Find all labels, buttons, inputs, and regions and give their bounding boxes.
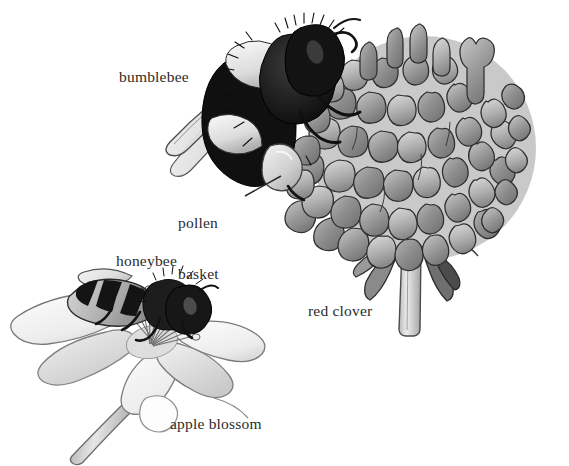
illustration-canvas	[0, 0, 569, 466]
illustration-figure: bumblebee pollen basket honeybee red clo…	[0, 0, 569, 466]
label-apple-blossom: apple blossom	[170, 415, 262, 432]
label-honeybee: honeybee	[116, 252, 177, 269]
label-pollen-basket-line2: basket	[178, 265, 219, 282]
label-red-clover: red clover	[308, 302, 372, 319]
label-pollen-basket: pollen basket	[178, 180, 219, 316]
label-pollen-basket-line1: pollen	[178, 214, 219, 231]
label-bumblebee: bumblebee	[119, 68, 189, 85]
